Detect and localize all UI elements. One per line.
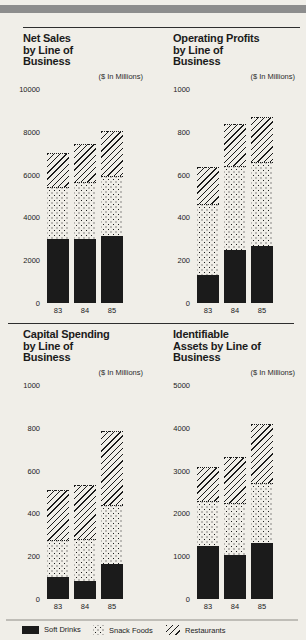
stacked-bar-85: 85 (101, 131, 123, 303)
y-tick-label: 200 (160, 256, 190, 265)
y-tick-label: 4000 (160, 423, 190, 432)
segment-restaurants (251, 117, 273, 162)
x-tick-label: 85 (101, 602, 123, 611)
legend-label: Restaurants (185, 626, 225, 635)
legend-label: Soft Drinks (44, 625, 81, 634)
segment-soft-drinks (47, 239, 69, 303)
chart-title: Operating Profitsby Line ofBusiness (173, 33, 300, 68)
legend: Soft Drinks Snack Foods Restaurants (0, 625, 306, 639)
stacked-bar-85: 85 (101, 431, 123, 599)
segment-restaurants (47, 490, 69, 540)
stacked-bar-85: 85 (251, 424, 273, 599)
chart-identifiable-assets: IdentifiableAssets by Line ofBusiness ($… (160, 327, 300, 619)
chart-title-line: Business (173, 352, 300, 364)
y-tick-label: 3000 (160, 466, 190, 475)
y-tick-label: 1000 (160, 85, 190, 94)
chart-title-line: Operating Profits (173, 33, 300, 45)
legend-item-soft-drinks: Soft Drinks (22, 625, 81, 634)
snack-foods-swatch-icon (93, 625, 104, 635)
soft-drinks-swatch-icon (22, 626, 39, 634)
y-tick-label: 8000 (10, 127, 40, 136)
y-tick-label: 800 (160, 127, 190, 136)
x-tick-label: 85 (101, 306, 123, 315)
segment-restaurants (74, 144, 96, 183)
plot-area: 02004006008001000838485 (160, 89, 300, 303)
segment-restaurants (47, 153, 69, 187)
segment-snack-foods (101, 505, 123, 564)
y-tick-label: 6000 (10, 170, 40, 179)
y-tick-label: 5000 (160, 381, 190, 390)
segment-soft-drinks (47, 577, 69, 599)
x-tick-label: 83 (47, 602, 69, 611)
segment-snack-foods (197, 501, 219, 545)
chart-title: IdentifiableAssets by Line ofBusiness (173, 329, 300, 364)
segment-soft-drinks (74, 239, 96, 303)
y-tick-label: 200 (10, 552, 40, 561)
segment-restaurants (224, 457, 246, 503)
segment-snack-foods (197, 204, 219, 276)
chart-title-line: Net Sales (23, 33, 148, 45)
y-tick-label: 0 (10, 299, 40, 308)
chart-title-line: Capital Spending (23, 329, 148, 341)
units-label: ($ In Millions) (98, 368, 143, 377)
units-label: ($ In Millions) (250, 72, 295, 81)
bars-group: 838485 (47, 89, 123, 303)
stacked-bar-83: 83 (197, 167, 219, 303)
segment-restaurants (74, 485, 96, 540)
top-gray-bar (0, 5, 306, 13)
stacked-bar-84: 84 (224, 457, 246, 599)
chart-operating-profits: Operating Profitsby Line ofBusiness ($ I… (160, 31, 300, 323)
segment-restaurants (251, 424, 273, 483)
bars-group: 838485 (197, 385, 273, 599)
y-tick-label: 600 (160, 170, 190, 179)
units-label: ($ In Millions) (98, 72, 143, 81)
stacked-bar-83: 83 (197, 467, 219, 599)
y-tick-label: 800 (10, 423, 40, 432)
chart-capital-spending: Capital Spendingby Line ofBusiness ($ In… (10, 327, 148, 619)
segment-snack-foods (74, 539, 96, 581)
legend-item-snack-foods: Snack Foods (93, 625, 153, 635)
x-tick-label: 84 (74, 306, 96, 315)
y-tick-label: 600 (10, 466, 40, 475)
y-tick-label: 2000 (10, 256, 40, 265)
segment-soft-drinks (251, 246, 273, 303)
x-tick-label: 84 (74, 602, 96, 611)
segment-restaurants (101, 431, 123, 505)
segment-soft-drinks (224, 250, 246, 304)
segment-soft-drinks (101, 236, 123, 303)
plot-area: 02004006008001000838485 (10, 385, 148, 599)
segment-restaurants (197, 467, 219, 502)
segment-snack-foods (47, 540, 69, 576)
y-tick-label: 0 (10, 595, 40, 604)
row2-divider-rule (8, 323, 294, 324)
segment-soft-drinks (197, 546, 219, 600)
restaurants-swatch-icon (166, 625, 180, 635)
legend-label: Snack Foods (109, 626, 153, 635)
stacked-bar-84: 84 (74, 144, 96, 303)
stacked-bar-85: 85 (251, 117, 273, 303)
x-tick-label: 83 (197, 602, 219, 611)
y-tick-label: 2000 (160, 509, 190, 518)
bars-group: 838485 (47, 385, 123, 599)
segment-restaurants (197, 167, 219, 203)
x-tick-label: 83 (47, 306, 69, 315)
y-tick-label: 0 (160, 299, 190, 308)
segment-snack-foods (47, 187, 69, 238)
segment-restaurants (224, 124, 246, 166)
segment-soft-drinks (74, 581, 96, 599)
legend-divider-rule (6, 619, 298, 621)
segment-snack-foods (101, 176, 123, 236)
stacked-bar-84: 84 (74, 485, 96, 599)
y-tick-label: 400 (160, 213, 190, 222)
plot-area: 010002000300040005000838485 (160, 385, 300, 599)
stacked-bar-84: 84 (224, 124, 246, 303)
x-tick-label: 85 (251, 602, 273, 611)
chart-title: Capital Spendingby Line ofBusiness (23, 329, 148, 364)
plot-area: 0200040006000800010000838485 (10, 89, 148, 303)
chart-title: Net Salesby Line ofBusiness (23, 33, 148, 68)
chart-title-line: Identifiable (173, 329, 300, 341)
chart-net-sales: Net Salesby Line ofBusiness ($ In Millio… (10, 31, 148, 323)
units-label: ($ In Millions) (250, 368, 295, 377)
segment-soft-drinks (251, 543, 273, 599)
y-tick-label: 0 (160, 595, 190, 604)
